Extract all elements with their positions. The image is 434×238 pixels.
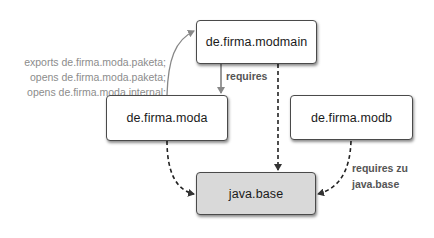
node-label: de.firma.modb bbox=[311, 111, 392, 125]
modb-requires-line: java.base bbox=[352, 176, 408, 192]
declaration-line: exports de.firma.moda.paketa; bbox=[14, 55, 166, 70]
node-label: de.firma.moda bbox=[126, 111, 207, 125]
moda-to-modmain-edge bbox=[167, 31, 194, 95]
modb-requires-label: requires zu java.base bbox=[352, 160, 408, 192]
node-java-base: java.base bbox=[196, 172, 316, 215]
module-diagram: exports de.firma.moda.paketa; opens de.f… bbox=[0, 0, 434, 238]
moda-to-javabase-edge bbox=[167, 141, 194, 194]
modb-requires-line: requires zu bbox=[352, 160, 408, 176]
modb-to-javabase-edge bbox=[318, 141, 351, 194]
node-modmain: de.firma.modmain bbox=[196, 20, 317, 64]
node-label: de.firma.modmain bbox=[206, 35, 308, 49]
requires-label: requires bbox=[226, 69, 267, 84]
declaration-line: opens de.firma.moda.paketa; bbox=[14, 70, 166, 85]
moda-declaration: exports de.firma.moda.paketa; opens de.f… bbox=[14, 55, 166, 100]
node-modb: de.firma.modb bbox=[290, 95, 413, 140]
node-moda: de.firma.moda bbox=[106, 95, 228, 141]
node-label: java.base bbox=[229, 187, 283, 201]
